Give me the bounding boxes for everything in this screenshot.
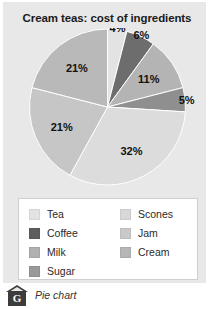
pie-label-sugar: 5% [179,94,195,106]
figure-caption-text: Pie chart [35,289,76,301]
legend-item-coffee[interactable]: Coffee [29,224,114,242]
glossary-letter-box: G [8,291,26,306]
legend-item-tea[interactable]: Tea [29,205,114,223]
legend-swatch-jam [120,228,131,239]
chart-legend: Tea Coffee Milk Sugar Sco [18,198,198,280]
pie-label-coffee: 6% [133,29,149,41]
legend-column-right: Scones Jam Cream [120,205,198,262]
legend-label-sugar: Sugar [47,265,75,277]
legend-item-jam[interactable]: Jam [120,224,198,242]
legend-swatch-tea [29,209,40,220]
legend-item-scones[interactable]: Scones [120,205,198,223]
chart-title: Cream teas: cost of ingredients [13,11,201,25]
glossary-g-icon[interactable]: G [6,285,28,306]
pie-label-milk: 11% [138,73,160,85]
figure-caption-row: G Pie chart [6,284,206,306]
legend-swatch-coffee [29,228,40,239]
pie-label-cream: 21% [66,62,88,74]
legend-item-sugar[interactable]: Sugar [29,262,114,280]
chart-panel: Cream teas: cost of ingredients 4%6%11%5… [3,2,206,283]
glossary-letter: G [13,293,22,304]
legend-column-left: Tea Coffee Milk Sugar [29,205,114,281]
legend-label-cream: Cream [138,246,170,258]
legend-swatch-milk [29,247,40,258]
pie-chart: 4%6%11%5%32%21%21% [6,28,209,193]
pie-label-scones: 32% [120,145,142,157]
legend-item-cream[interactable]: Cream [120,243,198,261]
legend-swatch-cream [120,247,131,258]
legend-label-coffee: Coffee [47,227,78,239]
legend-swatch-sugar [29,266,40,277]
legend-label-tea: Tea [47,208,64,220]
legend-swatch-scones [120,209,131,220]
pie-chart-svg: 4%6%11%5%32%21%21% [6,28,209,193]
legend-item-milk[interactable]: Milk [29,243,114,261]
pie-label-jam: 21% [51,121,73,133]
pie-label-tea: 4% [110,28,126,34]
legend-label-milk: Milk [47,246,66,258]
legend-label-jam: Jam [138,227,158,239]
figure-page: Cream teas: cost of ingredients 4%6%11%5… [0,0,209,309]
pie-slice-group [29,29,185,185]
legend-label-scones: Scones [138,208,173,220]
